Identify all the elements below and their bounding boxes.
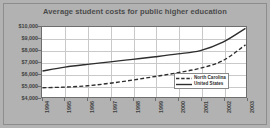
y-axis-tick-label: $8,000 — [0, 47, 38, 53]
chart-title: Average student costs for public higher … — [0, 7, 270, 16]
y-axis-tick-label: $9,000 — [0, 35, 38, 41]
x-axis-tick-mark — [224, 98, 225, 101]
y-axis-tick-label: $4,000 — [0, 95, 38, 101]
legend-line-swatch — [176, 83, 192, 86]
x-axis-tick-label: 1996 — [89, 101, 95, 113]
x-axis-tick-mark — [247, 98, 248, 101]
x-axis-tick-mark — [201, 98, 202, 101]
x-axis-tick-label: 2003 — [249, 101, 255, 113]
legend-label: United States — [194, 81, 223, 87]
x-axis-tick-label: 1994 — [44, 101, 50, 113]
x-axis-tick-label: 1998 — [135, 101, 141, 113]
x-axis-tick-mark — [178, 98, 179, 101]
chart-legend: North CarolinaUnited States — [174, 73, 229, 89]
y-axis-tick-label: $6,000 — [0, 71, 38, 77]
x-axis-tick-mark — [155, 98, 156, 101]
y-axis-tick-label: $10,000 — [0, 23, 38, 29]
chart-screenshot: Average student costs for public higher … — [0, 0, 270, 128]
x-axis-tick-label: 1999 — [158, 101, 164, 113]
x-axis-tick-label: 2001 — [203, 101, 209, 113]
x-axis-tick-label: 2000 — [180, 101, 186, 113]
x-axis-tick-mark — [133, 98, 134, 101]
x-axis-tick-mark — [87, 98, 88, 101]
x-axis-tick-mark — [42, 98, 43, 101]
x-axis-tick-label: 2002 — [226, 101, 232, 113]
x-axis-tick-mark — [110, 98, 111, 101]
y-axis-tick-label: $7,000 — [0, 59, 38, 65]
legend-line-swatch — [176, 77, 192, 80]
x-axis-tick-label: 1997 — [112, 101, 118, 113]
y-axis-tick-label: $5,000 — [0, 83, 38, 89]
x-axis-tick-label: 1995 — [66, 101, 72, 113]
legend-item: United States — [176, 81, 226, 87]
